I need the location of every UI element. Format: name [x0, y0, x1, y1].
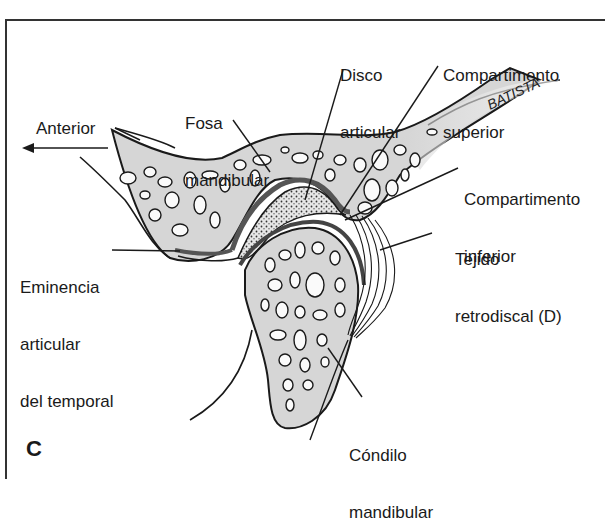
label-line: Disco — [340, 66, 400, 85]
label-line: Cóndilo — [349, 446, 433, 465]
label-line: mandibular — [185, 171, 269, 190]
label-line: retrodiscal (D) — [455, 307, 562, 326]
label-line: articular — [340, 123, 400, 142]
label-anterior: Anterior — [36, 119, 96, 138]
label-fosa-mandibular: Fosa mandibular — [185, 76, 269, 209]
label-tejido-retrodiscal: Tejido retrodiscal (D) — [455, 212, 562, 345]
label-condilo-mandibular: Cóndilo mandibular — [349, 408, 433, 522]
label-line: del temporal — [20, 392, 114, 411]
left-arrow-icon — [22, 143, 108, 153]
label-line: mandibular — [349, 503, 433, 522]
label-line: Compartimento — [464, 190, 580, 209]
label-line: superior — [443, 123, 559, 142]
label-line: Eminencia — [20, 278, 114, 297]
label-disco-articular: Disco articular — [340, 28, 400, 161]
label-compartimento-superior: Compartimento superior — [443, 28, 559, 161]
label-line: Fosa — [185, 114, 269, 133]
label-eminencia-articular: Eminencia articular del temporal — [20, 240, 114, 430]
panel-letter: C — [26, 436, 42, 462]
label-line: Tejido — [455, 250, 562, 269]
label-line: Compartimento — [443, 66, 559, 85]
label-line: articular — [20, 335, 114, 354]
